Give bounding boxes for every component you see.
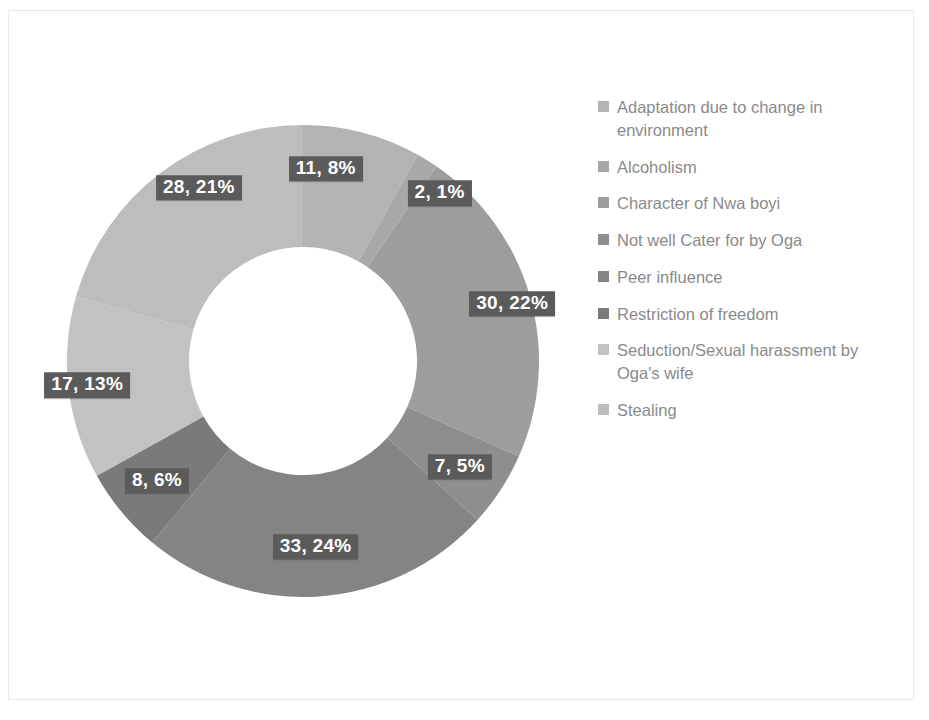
legend-item-label: Adaptation due to change in environment <box>617 96 902 142</box>
legend-item-label: Character of Nwa boyi <box>617 192 780 215</box>
legend-item[interactable]: Peer influence <box>598 266 918 289</box>
chart-legend: Adaptation due to change in environmentA… <box>598 96 918 436</box>
slice-data-label: 30, 22% <box>469 291 555 317</box>
donut-chart: 11, 8%2, 1%30, 22%7, 5%33, 24%8, 6%17, 1… <box>0 0 600 720</box>
legend-item-label: Seduction/Sexual harassment by Oga's wif… <box>617 339 902 385</box>
slice-data-label: 33, 24% <box>273 534 359 560</box>
legend-item[interactable]: Adaptation due to change in environment <box>598 96 918 142</box>
legend-item-label: Stealing <box>617 399 677 422</box>
legend-item[interactable]: Stealing <box>598 399 918 422</box>
slice-data-label: 2, 1% <box>408 180 472 206</box>
legend-item[interactable]: Alcoholism <box>598 156 918 179</box>
legend-item-label: Not well Cater for by Oga <box>617 229 802 252</box>
slice-data-label: 17, 13% <box>44 372 130 398</box>
slice-data-label: 7, 5% <box>428 454 492 480</box>
slice-data-label: 11, 8% <box>289 156 363 182</box>
legend-item[interactable]: Restriction of freedom <box>598 303 918 326</box>
legend-swatch-icon <box>598 197 609 208</box>
legend-item[interactable]: Seduction/Sexual harassment by Oga's wif… <box>598 339 918 385</box>
legend-swatch-icon <box>598 271 609 282</box>
legend-item-label: Restriction of freedom <box>617 303 778 326</box>
legend-swatch-icon <box>598 344 609 355</box>
legend-swatch-icon <box>598 161 609 172</box>
legend-item[interactable]: Character of Nwa boyi <box>598 192 918 215</box>
legend-swatch-icon <box>598 308 609 319</box>
slice-data-label: 28, 21% <box>156 175 242 201</box>
donut-svg <box>0 0 600 720</box>
legend-swatch-icon <box>598 404 609 415</box>
legend-item-label: Peer influence <box>617 266 723 289</box>
legend-item[interactable]: Not well Cater for by Oga <box>598 229 918 252</box>
slice-data-label: 8, 6% <box>125 468 189 494</box>
donut-slice[interactable] <box>76 125 303 330</box>
chart-page: 11, 8%2, 1%30, 22%7, 5%33, 24%8, 6%17, 1… <box>0 0 929 720</box>
legend-swatch-icon <box>598 101 609 112</box>
legend-item-label: Alcoholism <box>617 156 697 179</box>
legend-swatch-icon <box>598 234 609 245</box>
